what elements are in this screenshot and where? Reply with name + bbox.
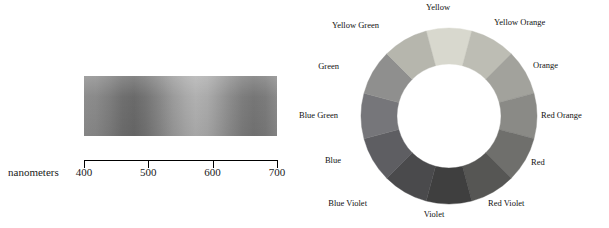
wheel-label-blue-violet: Blue Violet [328,198,367,208]
spectrum-diagram: nanometers 400500600700 [0,0,310,228]
wheel-label-red: Red [531,157,545,167]
wheel-label-green: Green [318,61,339,71]
spectrum-tick-label-700: 700 [257,166,297,178]
wheel-label-red-violet: Red Violet [488,198,524,208]
wheel-label-yellow-orange: Yellow Orange [494,17,545,27]
wheel-label-blue-green: Blue Green [299,110,338,120]
spectrum-axis-line [84,160,277,161]
color-wheel-svg [359,26,539,206]
spectrum-tick-label-500: 500 [128,166,168,178]
spectrum-tick-label-400: 400 [64,166,104,178]
color-wheel-graphic [359,26,539,206]
spectrum-color-band [84,76,277,136]
color-wheel-diagram: YellowYellow OrangeOrangeRed OrangeRedRe… [310,0,609,228]
wheel-label-yellow-green: Yellow Green [332,20,379,30]
wheel-label-blue: Blue [325,155,341,165]
spectrum-tick-label-600: 600 [193,166,233,178]
wheel-label-red-orange: Red Orange [541,110,582,120]
wheel-label-yellow: Yellow [426,2,450,12]
spectrum-axis-title: nanometers [8,166,59,178]
wheel-label-violet: Violet [424,209,445,219]
wheel-label-orange: Orange [533,60,558,70]
